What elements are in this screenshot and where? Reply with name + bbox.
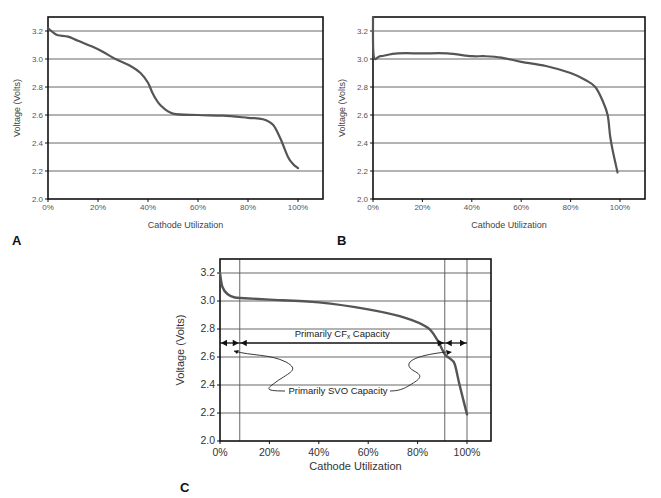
- y-tick-label: 2.8: [32, 83, 44, 92]
- x-tick-label: 80%: [240, 203, 256, 212]
- x-axis-label: Cathode Utilization: [148, 220, 224, 230]
- x-tick-label: 100%: [610, 203, 630, 212]
- x-tick-label: 60%: [190, 203, 206, 212]
- x-tick-label: 40%: [308, 446, 329, 458]
- y-tick-label: 2.6: [357, 111, 369, 120]
- y-tick-label: 3.0: [32, 55, 44, 64]
- y-tick-label: 2.2: [357, 167, 369, 176]
- panel-label-a: A: [12, 233, 22, 248]
- chart-panel-c: 2.02.22.42.62.83.03.20%20%40%60%80%100%C…: [174, 259, 491, 495]
- cfx-capacity-label: Primarily CFx Capacity: [295, 328, 390, 340]
- plot-frame: [220, 259, 491, 441]
- y-tick-label: 3.2: [200, 266, 215, 278]
- panel-label-c: C: [180, 480, 190, 495]
- y-tick-label: 2.6: [32, 111, 44, 120]
- panel-label-b: B: [337, 233, 346, 248]
- y-tick-label: 2.0: [200, 434, 215, 446]
- chart-panel-a: 2.02.22.42.62.83.03.20%20%40%60%80%100%C…: [12, 17, 323, 248]
- svo-capacity-label: Primarily SVO Capacity: [288, 385, 387, 396]
- y-axis-label: Voltage (Volts): [174, 315, 186, 386]
- x-tick-label: 20%: [90, 203, 106, 212]
- x-tick-label: 0%: [367, 203, 379, 212]
- gridlines: [373, 31, 645, 171]
- y-tick-label: 2.4: [32, 139, 44, 148]
- y-tick-label: 2.2: [32, 167, 44, 176]
- x-tick-label: 0%: [42, 203, 54, 212]
- plot-frame: [373, 17, 645, 199]
- y-tick-label: 2.4: [357, 139, 369, 148]
- x-tick-label: 80%: [407, 446, 428, 458]
- x-axis-label: Cathode Utilization: [309, 460, 401, 472]
- y-tick-label: 3.0: [357, 55, 369, 64]
- gridlines: [48, 31, 323, 171]
- figure: 2.02.22.42.62.83.03.20%20%40%60%80%100%C…: [0, 0, 661, 498]
- y-tick-label: 2.8: [200, 322, 215, 334]
- x-tick-label: 40%: [464, 203, 480, 212]
- x-tick-label: 100%: [288, 203, 308, 212]
- y-tick-label: 3.2: [357, 27, 369, 36]
- y-tick-label: 3.0: [200, 294, 215, 306]
- x-tick-label: 60%: [358, 446, 379, 458]
- x-tick-label: 80%: [563, 203, 579, 212]
- gridlines: [220, 259, 491, 441]
- x-tick-label: 100%: [454, 446, 481, 458]
- x-tick-label: 20%: [414, 203, 430, 212]
- chart-panel-b: 2.02.22.42.62.83.03.20%20%40%60%80%100%C…: [337, 17, 645, 248]
- x-tick-label: 0%: [212, 446, 227, 458]
- y-axis-label: Voltage (Volts): [12, 79, 22, 137]
- y-tick-label: 2.6: [200, 350, 215, 362]
- discharge-curve: [373, 17, 618, 172]
- x-tick-label: 40%: [140, 203, 156, 212]
- y-tick-label: 2.4: [200, 378, 215, 390]
- discharge-curve: [48, 28, 298, 168]
- y-tick-label: 2.8: [357, 83, 369, 92]
- x-tick-label: 20%: [259, 446, 280, 458]
- capacity-annotations: Primarily CFx CapacityPrimarily SVO Capa…: [220, 328, 467, 396]
- y-axis-label: Voltage (Volts): [337, 79, 347, 137]
- y-tick-label: 2.2: [200, 406, 215, 418]
- y-tick-label: 3.2: [32, 27, 44, 36]
- x-axis-label: Cathode Utilization: [471, 220, 547, 230]
- x-tick-label: 60%: [513, 203, 529, 212]
